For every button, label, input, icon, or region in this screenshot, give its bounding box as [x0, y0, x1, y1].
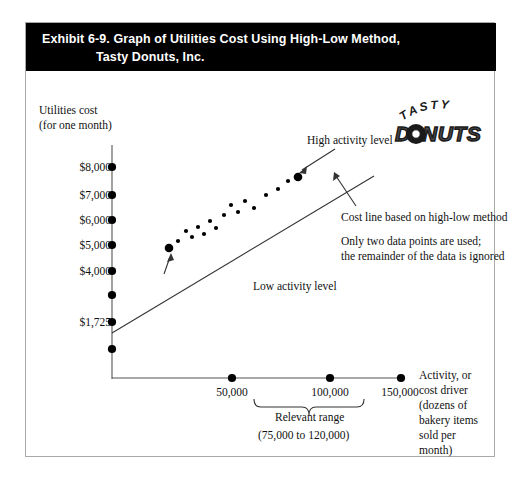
- low-activity-arrow-head: [167, 253, 174, 262]
- relevant-range-brace: [254, 399, 364, 415]
- y-tick-dot-7000: [108, 191, 116, 199]
- high-activity-point: [294, 173, 303, 182]
- high-activity-arrow-shaft: [302, 149, 335, 170]
- y-tick-dot-1000: [108, 345, 116, 353]
- exhibit-frame: Exhibit 6-9. Graph of Utilities Cost Usi…: [25, 22, 495, 457]
- high-activity-arrow-head: [299, 166, 307, 174]
- low-activity-point: [165, 244, 174, 253]
- y-tick-dot-4000: [108, 267, 116, 275]
- tasty-donuts-logo-graphic: TASTY D NUTS: [391, 98, 491, 150]
- data-point: [229, 203, 233, 207]
- data-point: [243, 199, 247, 203]
- data-point: [222, 213, 226, 217]
- cost-line-arrow-shaft: [336, 176, 356, 206]
- logo-bottom-text-2: NUTS: [422, 122, 481, 145]
- y-tick-dot-6000: [108, 216, 116, 224]
- exhibit-title-line-1: Exhibit 6-9. Graph of Utilities Cost Usi…: [42, 32, 400, 46]
- data-point: [208, 219, 212, 223]
- exhibit-header: Exhibit 6-9. Graph of Utilities Cost Usi…: [26, 23, 496, 71]
- tasty-donuts-logo: TASTY D NUTS: [391, 98, 491, 150]
- data-point: [214, 226, 218, 230]
- data-point: [252, 206, 256, 210]
- y-tick-dot-3000: [108, 291, 116, 299]
- data-point: [276, 187, 280, 191]
- y-tick-dot-5000: [108, 241, 116, 249]
- chart-plot-area: Utilities cost (for one month) Activity,…: [26, 71, 496, 458]
- logo-donut-hole: [412, 130, 420, 138]
- data-point: [184, 229, 188, 233]
- logo-top-text: TASTY: [397, 98, 452, 123]
- data-point: [286, 179, 290, 183]
- cost-line: [112, 176, 374, 333]
- data-point: [264, 193, 268, 197]
- exhibit-title-line-2: Tasty Donuts, Inc.: [96, 50, 205, 64]
- data-point: [190, 235, 194, 239]
- x-tick-dot-150000: [397, 374, 405, 382]
- y-tick-dot-1725: [108, 318, 116, 326]
- data-point: [202, 232, 206, 236]
- x-tick-dot-50000: [228, 374, 236, 382]
- x-tick-dot-100000: [326, 374, 334, 382]
- data-point: [176, 239, 180, 243]
- data-point: [196, 225, 200, 229]
- y-tick-dot-8000: [108, 163, 116, 171]
- data-point: [236, 210, 240, 214]
